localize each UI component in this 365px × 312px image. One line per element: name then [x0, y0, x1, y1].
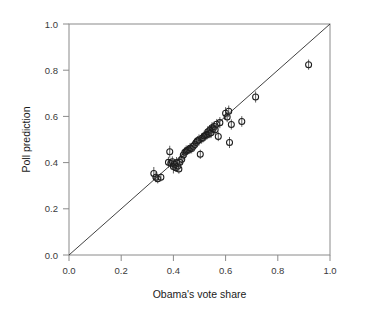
x-tick-label: 0.6: [219, 265, 232, 276]
y-tick-label: 1.0: [45, 19, 58, 30]
y-axis-ticks: [63, 24, 69, 255]
data-point: [197, 150, 203, 159]
x-tick-label: 0.4: [167, 265, 180, 276]
data-point: [239, 116, 245, 127]
x-tick-label: 0.8: [271, 265, 284, 276]
x-axis-title: Obama's vote share: [153, 288, 247, 300]
y-axis-tick-labels: 0.00.20.40.60.81.0: [45, 19, 58, 261]
x-tick-label: 0.0: [62, 265, 75, 276]
y-axis-title: Poll prediction: [20, 106, 32, 172]
x-axis-ticks: [69, 255, 330, 261]
plot-canvas: 0.00.20.40.60.81.0 0.00.20.40.60.81.0 Ob…: [0, 0, 365, 312]
x-axis-tick-labels: 0.00.20.40.60.81.0: [62, 265, 336, 276]
scatter-plot-figure: 0.00.20.40.60.81.0 0.00.20.40.60.81.0 Ob…: [0, 0, 365, 312]
y-tick-label: 0.2: [45, 203, 58, 214]
y-tick-label: 0.0: [45, 250, 58, 261]
data-point: [215, 132, 221, 141]
data-points-layer: [151, 60, 312, 184]
y-tick-label: 0.4: [45, 157, 58, 168]
data-point: [306, 60, 312, 70]
x-tick-label: 0.2: [115, 265, 128, 276]
x-tick-label: 1.0: [323, 265, 336, 276]
data-point: [253, 91, 259, 102]
y-tick-label: 0.6: [45, 111, 58, 122]
data-point: [227, 137, 233, 148]
data-point: [228, 119, 234, 129]
data-point: [167, 146, 173, 158]
y-tick-label: 0.8: [45, 65, 58, 76]
